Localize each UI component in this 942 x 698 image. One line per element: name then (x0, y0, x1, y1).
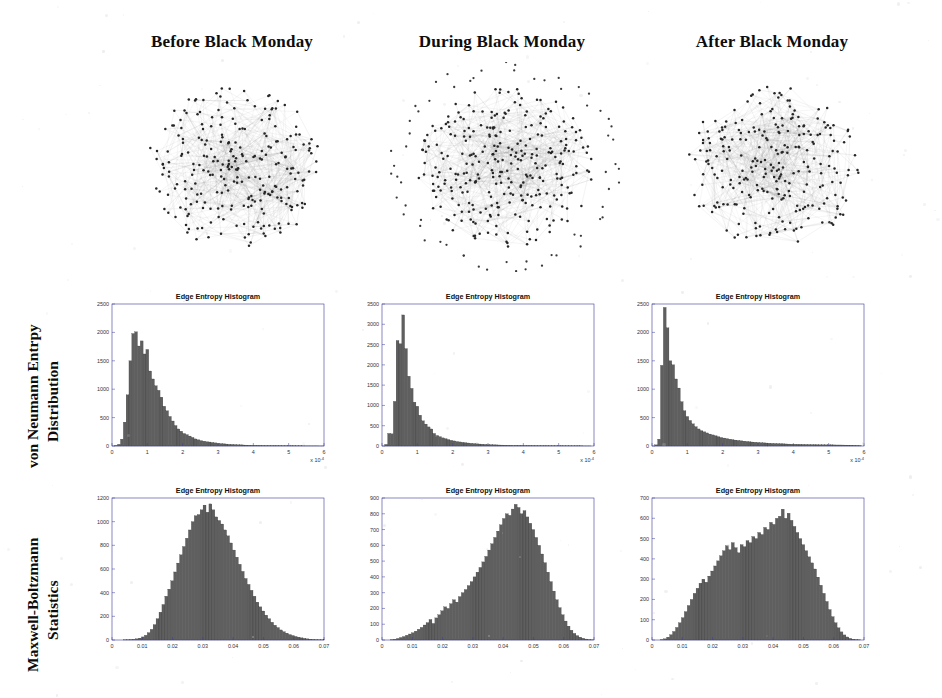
scan-speckle (525, 212, 527, 214)
scan-speckle (810, 412, 812, 414)
scan-speckle (252, 636, 254, 638)
network-graph-before (105, 62, 365, 272)
row-label-maxwell-boltzmann-line1: Maxwell-Boltzmann (24, 538, 42, 672)
scan-speckle (852, 127, 854, 129)
svg-text:0.03: 0.03 (198, 643, 209, 649)
scan-speckle (60, 557, 63, 560)
svg-text:0: 0 (111, 449, 114, 455)
scan-speckle (308, 423, 310, 425)
scan-speckle (510, 672, 511, 673)
scan-speckle (206, 232, 208, 234)
scan-speckle (810, 51, 812, 53)
scan-speckle (635, 669, 637, 671)
histogram-vn-before: Edge Entropy Histogram050010001500200025… (78, 288, 330, 466)
svg-text:Edge Entropy Histogram: Edge Entropy Histogram (716, 292, 800, 301)
svg-text:5: 5 (557, 449, 560, 455)
scan-speckle (67, 279, 69, 281)
scan-speckle (928, 40, 929, 41)
scan-speckle (221, 59, 224, 62)
svg-text:2500: 2500 (367, 342, 379, 348)
svg-text:6: 6 (863, 449, 866, 455)
svg-text:0: 0 (106, 637, 109, 643)
scan-speckle (229, 249, 232, 252)
scan-speckle (171, 109, 173, 111)
scan-speckle (923, 203, 926, 206)
svg-text:600: 600 (640, 515, 649, 521)
scan-speckle (373, 13, 374, 14)
svg-text:0.04: 0.04 (768, 643, 779, 649)
scan-speckle (563, 21, 565, 23)
scan-speckle (587, 390, 590, 393)
scan-speckle (520, 660, 523, 663)
svg-text:0.04: 0.04 (228, 643, 239, 649)
svg-text:500: 500 (640, 536, 649, 542)
scan-speckle (934, 210, 936, 212)
svg-text:2000: 2000 (97, 329, 109, 335)
svg-text:1200: 1200 (97, 495, 109, 501)
svg-text:2: 2 (451, 449, 454, 455)
histogram-mb-after: Edge Entropy Histogram010020030040050060… (618, 482, 870, 660)
scan-speckle (806, 77, 809, 80)
scan-speckle (904, 149, 907, 152)
scan-speckle (881, 373, 882, 374)
scan-speckle (267, 179, 269, 181)
column-header-during: During Black Monday (392, 32, 612, 54)
scan-speckle (695, 406, 698, 409)
histogram-vn-during: Edge Entropy Histogram050010001500200025… (348, 288, 600, 466)
scan-speckle (302, 442, 305, 445)
svg-text:0.06: 0.06 (288, 643, 299, 649)
scan-speckle (769, 298, 771, 300)
scan-speckle (22, 186, 23, 187)
svg-text:400: 400 (100, 590, 109, 596)
scan-speckle (889, 570, 892, 573)
svg-text:1: 1 (686, 449, 689, 455)
scan-speckle (897, 2, 900, 5)
scan-speckle (7, 548, 10, 551)
scan-speckle (57, 6, 59, 8)
scan-speckle (909, 475, 912, 478)
scan-speckle (56, 694, 58, 696)
scan-speckle (912, 494, 914, 496)
svg-text:2500: 2500 (97, 301, 109, 307)
scan-speckle (181, 681, 184, 684)
scan-speckle (568, 544, 569, 545)
svg-text:6: 6 (323, 449, 326, 455)
scan-speckle (826, 221, 829, 224)
histogram-mb-before: Edge Entropy Histogram020040060080010001… (78, 482, 330, 660)
svg-text:200: 200 (370, 605, 379, 611)
svg-text:4: 4 (522, 449, 525, 455)
network-graph-after (645, 62, 905, 272)
scan-speckle (123, 14, 125, 16)
scan-speckle (441, 215, 443, 217)
svg-text:Edge Entropy Histogram: Edge Entropy Histogram (176, 486, 260, 495)
scan-speckle (70, 583, 73, 586)
svg-text:0.04: 0.04 (498, 643, 509, 649)
svg-text:1: 1 (416, 449, 419, 455)
svg-text:300: 300 (370, 590, 379, 596)
svg-text:0: 0 (651, 449, 654, 455)
scan-speckle (722, 160, 725, 163)
svg-text:0.01: 0.01 (137, 643, 148, 649)
scan-speckle (621, 279, 624, 282)
svg-text:x 10-4: x 10-4 (850, 456, 865, 463)
scan-speckle (233, 213, 236, 216)
scan-speckle (324, 466, 326, 468)
scan-speckle (46, 312, 49, 315)
svg-text:0: 0 (111, 643, 114, 649)
svg-text:0: 0 (381, 643, 384, 649)
svg-text:0: 0 (646, 637, 649, 643)
scan-speckle (446, 427, 449, 430)
histogram-mb-during: Edge Entropy Histogram010020030040050060… (348, 482, 600, 660)
svg-text:1000: 1000 (97, 519, 109, 525)
scan-speckle (476, 442, 478, 444)
scan-speckle (671, 678, 673, 680)
scan-speckle (357, 21, 360, 24)
scan-speckle (907, 2, 909, 4)
scan-speckle (259, 521, 262, 524)
svg-text:0.03: 0.03 (738, 643, 749, 649)
row-label-von-neumann-line1: von Neumann Entrpy (24, 324, 42, 468)
histogram-vn-after: Edge Entropy Histogram050010001500200025… (618, 288, 870, 466)
svg-text:0.07: 0.07 (589, 643, 600, 649)
scan-speckle (22, 119, 23, 120)
svg-text:x 10-4: x 10-4 (580, 456, 595, 463)
